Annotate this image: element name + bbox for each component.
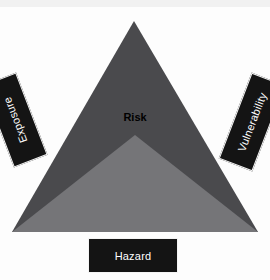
- label-text-hazard: Hazard: [115, 250, 152, 262]
- label-text-exposure: Exposure: [1, 95, 29, 144]
- risk-center-label: Risk: [110, 111, 160, 123]
- risk-triangle-diagram: Risk Exposure Vulnerability Hazard: [0, 0, 270, 280]
- label-box-hazard: Hazard: [88, 238, 178, 273]
